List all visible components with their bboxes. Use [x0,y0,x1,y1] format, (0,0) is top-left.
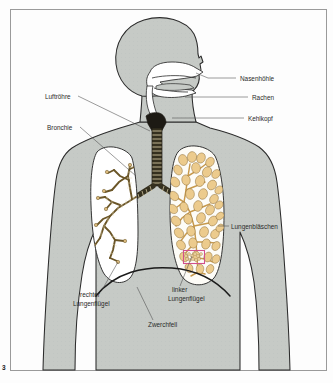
label-nasenhoehle: Nasenhöhle [240,75,275,82]
label-bronchie: Bronchie [47,124,73,131]
label-rechter-lungenfluegel-line1: rechter [80,291,101,298]
label-linker-lungenfluegel-line2: Lungenflügel [168,295,205,303]
label-linker-lungenfluegel-line1: linker [172,286,188,293]
figure-number: 3 [2,364,6,371]
label-rachen: Rachen [252,94,274,101]
figure-container: Nasenhöhle Rachen Kehlkopf Lungenbläsche… [0,0,333,383]
anatomy-diagram-svg: Nasenhöhle Rachen Kehlkopf Lungenbläsche… [0,0,333,383]
label-luftroehre: Luftröhre [45,93,71,100]
label-rechter-lungenfluegel-line2: Lungenflügel [73,300,110,308]
label-zwerchfell: Zwerchfell [148,321,177,328]
label-kehlkopf: Kehlkopf [248,115,273,123]
label-lungenblaeschen: Lungenbläschen [231,223,278,231]
